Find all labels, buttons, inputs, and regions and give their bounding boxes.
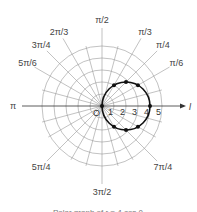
polar-plot: π/6π/4π/3π/22π/33π/45π/6π5π/43π/27π/4 12… (0, 0, 197, 212)
data-point (124, 128, 128, 132)
data-point (112, 125, 116, 129)
angle-label: π/6 (170, 58, 184, 68)
angle-label: π/2 (95, 15, 109, 25)
angle-label: 2π/3 (50, 27, 69, 37)
angle-label: π (10, 101, 16, 111)
data-point (136, 83, 140, 87)
angle-label: 3π/2 (93, 187, 112, 197)
caption: Polar graph of r = 4 cos θ (53, 208, 144, 212)
data-point (124, 80, 128, 84)
angle-label: 7π/4 (153, 162, 172, 172)
radial-tick-label: 1 (108, 107, 113, 117)
data-point (112, 83, 116, 87)
angle-label: 5π/6 (18, 58, 37, 68)
axis-arrow-icon (180, 104, 186, 109)
radial-tick-label: 3 (132, 107, 137, 117)
radial-tick-labels: 12345 (108, 107, 161, 117)
angle-label: 3π/4 (32, 40, 51, 50)
angle-label: π/4 (156, 40, 170, 50)
radial-tick-label: 2 (120, 107, 125, 117)
polar-axis-label: l (189, 102, 192, 112)
data-point (100, 104, 104, 108)
radial-tick-label: 5 (156, 107, 161, 117)
origin-label: O (93, 108, 100, 118)
data-point (148, 104, 152, 108)
angle-label: 5π/4 (32, 162, 51, 172)
data-point (136, 125, 140, 129)
angle-label: π/3 (138, 27, 152, 37)
